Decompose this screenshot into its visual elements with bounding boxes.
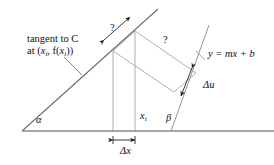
delta-x-label: Δx — [120, 145, 131, 157]
delta-u-arrow — [181, 68, 192, 96]
line-equation-label: y = mx + b — [208, 48, 255, 60]
delta-u-label: Δu — [203, 79, 214, 91]
angle-alpha-label: α — [36, 114, 42, 126]
unknown-1-label: ? — [110, 22, 115, 34]
tangent-caption-line1: tangent to C — [27, 33, 78, 44]
tangent-caption-close: )) — [66, 45, 73, 56]
angle-beta-label: β — [166, 112, 171, 124]
tangent-line — [22, 9, 158, 131]
tangent-caption-open: at ( — [27, 45, 41, 56]
geometry-figure — [0, 0, 274, 165]
x-sub-i-subscript: i — [145, 115, 147, 123]
secant-line — [171, 25, 209, 131]
tangent-caption-line2: at (xi, f(xi)) — [27, 45, 78, 58]
x-sub-i-label: xi — [140, 110, 147, 123]
tangent-caption-leader — [64, 57, 82, 75]
parallelogram-shape — [113, 31, 196, 92]
unknown-2-label: ? — [163, 34, 168, 46]
unknown-1-arrow — [104, 17, 130, 40]
tangent-caption-text: tangent to C — [27, 33, 78, 44]
tangent-caption-mid: , f( — [47, 45, 59, 56]
tangent-caption: tangent to C at (xi, f(xi)) — [27, 33, 78, 58]
